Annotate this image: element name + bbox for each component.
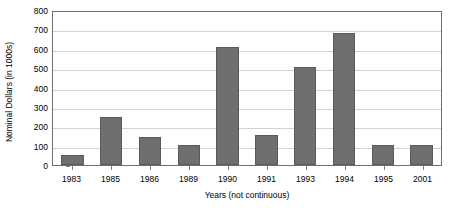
bar-slot [208, 12, 247, 165]
x-tick-slot [364, 166, 403, 170]
y-axis-title: Nominal Dollars (in 1000s) [2, 12, 16, 172]
bar[interactable] [61, 155, 84, 165]
bar[interactable] [139, 137, 162, 165]
x-tick-mark [267, 166, 268, 170]
x-tick-label: 1993 [286, 172, 325, 186]
x-tick-mark [150, 166, 151, 170]
x-tick-mark [72, 166, 73, 170]
y-axis-tick-labels: 0100200300400500600700800 [18, 11, 48, 166]
y-tick-label: 100 [34, 142, 48, 151]
y-tick-label: 400 [34, 84, 48, 93]
bar[interactable] [294, 67, 317, 165]
y-tick-label: 300 [34, 104, 48, 113]
bar-slot [247, 12, 286, 165]
x-axis-tick-marks [52, 166, 442, 170]
bar[interactable] [372, 145, 395, 165]
x-tick-slot [130, 166, 169, 170]
x-tick-label: 1995 [364, 172, 403, 186]
x-tick-label: 1989 [169, 172, 208, 186]
x-tick-slot [286, 166, 325, 170]
bars-container [53, 12, 441, 165]
x-tick-mark [345, 166, 346, 170]
y-tick-label: 500 [34, 65, 48, 74]
bar[interactable] [333, 33, 356, 165]
y-tick-label: 200 [34, 123, 48, 132]
x-axis-title: Years (not continuous) [52, 190, 442, 200]
bar-slot [53, 12, 92, 165]
x-tick-label: 1983 [52, 172, 91, 186]
x-tick-slot [247, 166, 286, 170]
x-tick-label: 1990 [208, 172, 247, 186]
bar-slot [92, 12, 131, 165]
bar[interactable] [216, 47, 239, 165]
plot-area [52, 11, 442, 166]
x-tick-mark [384, 166, 385, 170]
x-tick-label: 1991 [247, 172, 286, 186]
bar-slot [169, 12, 208, 165]
y-tick-label: 700 [34, 26, 48, 35]
x-tick-slot [403, 166, 442, 170]
bar-slot [131, 12, 170, 165]
bar[interactable] [255, 135, 278, 165]
bar[interactable] [178, 145, 201, 165]
y-tick-label: 800 [34, 7, 48, 16]
x-tick-label: 1985 [91, 172, 130, 186]
bar-slot [286, 12, 325, 165]
bar-chart-figure: Nominal Dollars (in 1000s) 0100200300400… [0, 0, 452, 216]
x-tick-slot [52, 166, 91, 170]
y-tick-label: 0 [43, 162, 48, 171]
x-tick-slot [169, 166, 208, 170]
x-tick-label: 2001 [403, 172, 442, 186]
y-tick-label: 600 [34, 46, 48, 55]
x-tick-mark [111, 166, 112, 170]
x-tick-mark [189, 166, 190, 170]
x-tick-slot [208, 166, 247, 170]
bar-slot [363, 12, 402, 165]
x-tick-slot [91, 166, 130, 170]
bar-slot [325, 12, 364, 165]
x-tick-label: 1986 [130, 172, 169, 186]
x-tick-mark [306, 166, 307, 170]
x-tick-slot [325, 166, 364, 170]
bar[interactable] [410, 145, 433, 165]
x-tick-mark [228, 166, 229, 170]
bar-slot [402, 12, 441, 165]
bar[interactable] [100, 117, 123, 165]
x-tick-mark [423, 166, 424, 170]
x-tick-label: 1994 [325, 172, 364, 186]
x-axis-tick-labels: 1983198519861989199019911993199419952001 [52, 172, 442, 186]
